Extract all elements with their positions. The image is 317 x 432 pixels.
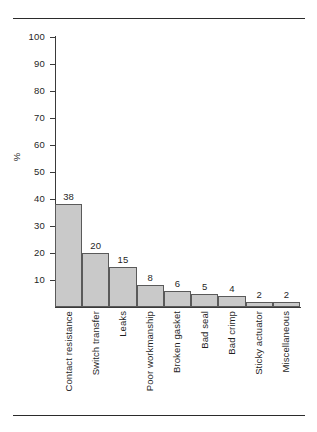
- y-axis-tick-label: 20: [5, 248, 45, 258]
- bar-value-label: 20: [82, 241, 109, 251]
- bar-slot: 5: [191, 37, 218, 307]
- bar[interactable]: [191, 294, 218, 308]
- bar-value-label: 4: [218, 284, 245, 294]
- bar-value-label: 2: [246, 290, 273, 300]
- x-axis-category-label: Bad seal: [191, 307, 218, 412]
- bar[interactable]: [82, 253, 109, 307]
- bar-slot: 20: [82, 37, 109, 307]
- x-axis-category-label: Broken gasket: [164, 307, 191, 412]
- bar[interactable]: [137, 285, 164, 307]
- x-axis-category-label: Poor workmanship: [137, 307, 164, 412]
- bar-slot: 2: [246, 37, 273, 307]
- x-axis-category-label-text: Switch transfer: [91, 311, 101, 375]
- top-rule: [13, 18, 305, 19]
- bottom-rule: [13, 415, 305, 416]
- bar-value-label: 5: [191, 282, 218, 292]
- figure: % 100908070605040302010 382015865422 Con…: [0, 0, 317, 432]
- y-axis-title: %: [12, 149, 22, 165]
- x-axis-category-label-text: Poor workmanship: [145, 311, 155, 391]
- y-axis-tick-label: 90: [5, 59, 45, 69]
- bar-value-label: 2: [273, 290, 300, 300]
- x-axis-category-label: Bad crimp: [218, 307, 245, 412]
- y-axis-tick-label: 50: [5, 167, 45, 177]
- y-axis-tick-label: 100: [5, 32, 45, 42]
- bar-slot: 38: [55, 37, 82, 307]
- x-axis-category-label-text: Sticky actuator: [254, 311, 264, 375]
- y-axis-tick-label: 70: [5, 113, 45, 123]
- bar-value-label: 38: [55, 192, 82, 202]
- bar-value-label: 6: [164, 279, 191, 289]
- x-axis-category-label: Switch transfer: [82, 307, 109, 412]
- x-axis-category-label: Leaks: [109, 307, 136, 412]
- x-axis-category-label-text: Bad seal: [200, 311, 210, 349]
- bar-slot: 2: [273, 37, 300, 307]
- bar-slot: 6: [164, 37, 191, 307]
- bar-series: 382015865422: [55, 37, 301, 307]
- bar[interactable]: [164, 291, 191, 307]
- y-axis-tick-label: 80: [5, 86, 45, 96]
- bar[interactable]: [109, 267, 136, 308]
- bar-slot: 15: [109, 37, 136, 307]
- x-axis-category-label: Contact resistance: [55, 307, 82, 412]
- bar[interactable]: [55, 204, 82, 307]
- x-axis-category-label-text: Leaks: [118, 311, 128, 337]
- bar-slot: 4: [218, 37, 245, 307]
- bar[interactable]: [218, 296, 245, 307]
- x-axis-category-label-text: Broken gasket: [172, 311, 182, 373]
- x-axis-category-label-text: Bad crimp: [227, 311, 237, 355]
- x-axis-category-label: Sticky actuator: [246, 307, 273, 412]
- y-axis-tick-label: 60: [5, 140, 45, 150]
- y-axis-tick-label: 30: [5, 221, 45, 231]
- x-axis-category-label: Miscellaneous: [273, 307, 300, 412]
- y-axis-tick-label: 10: [5, 275, 45, 285]
- bar-slot: 8: [137, 37, 164, 307]
- y-axis-tick-label: 40: [5, 194, 45, 204]
- x-axis-category-labels: Contact resistanceSwitch transferLeaksPo…: [55, 307, 301, 412]
- x-axis-category-label-text: Miscellaneous: [281, 311, 291, 373]
- bar-value-label: 8: [137, 273, 164, 283]
- bar-value-label: 15: [109, 255, 136, 265]
- x-axis-category-label-text: Contact resistance: [64, 311, 74, 391]
